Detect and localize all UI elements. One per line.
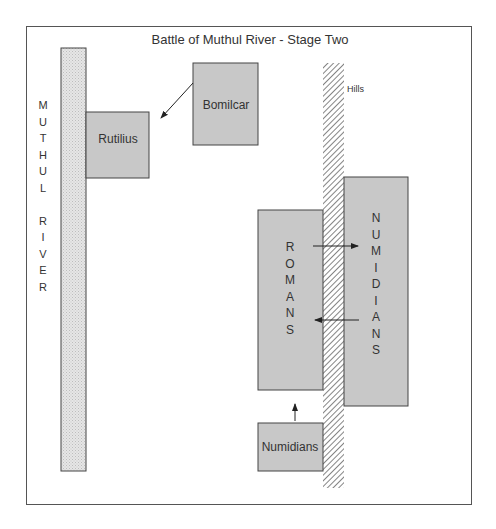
romans-label-letter: S (286, 323, 294, 337)
muthul-river (61, 48, 86, 471)
arrow-bomilcar-to-rutilius (161, 83, 193, 118)
rutilius-label: Rutilius (98, 132, 137, 146)
numidians-bottom-label: Numidians (262, 440, 319, 454)
numidians-label-letter: S (372, 343, 380, 357)
hills (323, 63, 344, 488)
romans-label-letter: R (286, 240, 295, 254)
numidians-main-label: NUMIDIANS (371, 211, 381, 357)
bomilcar-label: Bomilcar (203, 98, 250, 112)
romans-label-letter: M (285, 273, 295, 287)
river-label-letter: H (39, 149, 47, 161)
river-label-letter: M (38, 99, 47, 111)
battle-diagram: Battle of Muthul River - Stage Two MUTHU… (0, 0, 496, 529)
river-label-letter: I (41, 231, 44, 243)
diagram-title: Battle of Muthul River - Stage Two (151, 32, 348, 47)
romans-label-letter: A (286, 290, 294, 304)
river-label-letter: E (39, 264, 46, 276)
romans-label-letter: O (285, 257, 294, 271)
river-label-letter: R (39, 281, 47, 293)
river-label-letter: U (39, 165, 47, 177)
numidians-label-letter: A (372, 310, 380, 324)
numidians-label-letter: I (374, 261, 377, 275)
river-label-letter: L (40, 182, 46, 194)
river-label-letter: R (39, 215, 47, 227)
numidians-label-letter: M (371, 244, 381, 258)
river-label-letter: V (39, 248, 47, 260)
numidians-label-letter: N (372, 327, 381, 341)
romans-label-letter: N (286, 306, 295, 320)
river-label-letter: U (39, 116, 47, 128)
numidians-label-letter: D (372, 277, 381, 291)
numidians-label-letter: N (372, 211, 381, 225)
river-label-letter: T (40, 132, 47, 144)
numidians-label-letter: I (374, 294, 377, 308)
river-label: MUTHULRIVER (38, 99, 47, 293)
hills-label: Hills (347, 84, 364, 94)
numidians-label-letter: U (372, 228, 381, 242)
